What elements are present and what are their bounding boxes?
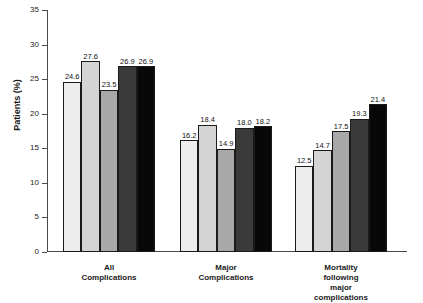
y-tick-mark: [42, 183, 47, 184]
bar-value-label: 14.7: [315, 142, 330, 150]
bar[interactable]: 21.4: [369, 104, 387, 252]
bar-value-label: 14.9: [219, 140, 234, 148]
bar[interactable]: 26.9: [137, 66, 155, 252]
bar-value-label: 18.2: [256, 118, 271, 126]
bar[interactable]: 18.0: [235, 128, 253, 252]
y-tick-label: 35: [30, 6, 39, 14]
bar[interactable]: 24.6: [63, 82, 81, 252]
y-tick-label: 5: [35, 213, 39, 221]
bar[interactable]: 14.9: [217, 149, 235, 252]
bars: 16.218.414.918.018.2: [180, 10, 272, 252]
x-category-label: Mortality following major complications: [314, 263, 368, 303]
y-tick-label: 20: [30, 110, 39, 118]
bar[interactable]: 27.6: [81, 61, 99, 252]
bar-value-label: 26.9: [120, 58, 135, 66]
y-axis-line: [47, 10, 48, 252]
x-category-label: All Complications: [81, 263, 136, 283]
bar[interactable]: 19.3: [350, 119, 368, 252]
y-tick-label: 15: [30, 144, 39, 152]
bar[interactable]: 16.2: [180, 140, 198, 252]
bar-group: 16.218.414.918.018.2Major Complications: [180, 10, 272, 252]
bar-value-label: 27.6: [83, 53, 98, 61]
bars: 24.627.623.526.926.9: [63, 10, 155, 252]
bar[interactable]: 26.9: [118, 66, 136, 252]
bar[interactable]: 17.5: [332, 131, 350, 252]
y-tick-mark: [42, 45, 47, 46]
y-tick-mark: [42, 114, 47, 115]
y-tick-label: 0: [35, 248, 39, 256]
bar-value-label: 17.5: [334, 123, 349, 131]
bar-value-label: 21.4: [371, 96, 386, 104]
bar-value-label: 12.5: [297, 157, 312, 165]
y-tick-mark: [42, 10, 47, 11]
bar-value-label: 18.0: [237, 119, 252, 127]
bar[interactable]: 18.4: [198, 125, 216, 252]
y-axis-title: Patients (%): [12, 60, 22, 150]
bar-value-label: 24.6: [65, 73, 80, 81]
bar[interactable]: 14.7: [313, 150, 331, 252]
y-tick-mark: [42, 252, 47, 253]
y-tick-mark: [42, 217, 47, 218]
bar-value-label: 26.9: [139, 58, 154, 66]
y-tick-mark: [42, 79, 47, 80]
bars: 12.514.717.519.321.4: [295, 10, 387, 252]
y-tick-label: 10: [30, 179, 39, 187]
bar[interactable]: 12.5: [295, 166, 313, 252]
bar-value-label: 18.4: [200, 116, 215, 124]
bar-group: 24.627.623.526.926.9All Complications: [63, 10, 155, 252]
y-tick-label: 30: [30, 41, 39, 49]
bar[interactable]: 18.2: [254, 126, 272, 252]
bar[interactable]: 23.5: [100, 90, 118, 252]
y-tick-mark: [42, 148, 47, 149]
x-category-label: Major Complications: [198, 263, 253, 283]
y-tick-label: 25: [30, 75, 39, 83]
bar-value-label: 19.3: [352, 110, 367, 118]
bar-value-label: 23.5: [102, 81, 117, 89]
plot-area: 05101520253035 24.627.623.526.926.9All C…: [47, 10, 407, 252]
bar-value-label: 16.2: [182, 132, 197, 140]
bar-group: 12.514.717.519.321.4Mortality following …: [295, 10, 387, 252]
